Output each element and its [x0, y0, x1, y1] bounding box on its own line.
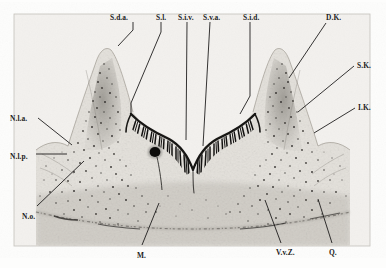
- micrograph-plate: [0, 0, 386, 268]
- figure-label-v-v-z: V.v.Z.: [276, 249, 295, 256]
- basal-stroma: [36, 182, 350, 246]
- figure-label-s-i-d: S.i.d.: [243, 14, 259, 21]
- figure-label-s-i-v: S.i.v.: [178, 14, 194, 21]
- figure-label-s-l: S.l.: [156, 14, 166, 21]
- figure-root: S.d.a.S.l.S.i.v.S.v.a.S.i.d.D.K.S.K.I.K.…: [0, 0, 386, 268]
- figure-label-n-l-a: N.l.a.: [10, 115, 27, 122]
- figure-label-i-k: I.K.: [358, 104, 371, 111]
- figure-label-q: Q.: [329, 249, 337, 256]
- figure-label-m: M.: [137, 252, 146, 259]
- figure-label-s-v-a: S.v.a.: [203, 14, 220, 21]
- figure-label-n-o: N.o.: [22, 213, 35, 220]
- figure-label-n-l-p: N.l.p.: [10, 153, 28, 160]
- figure-label-s-k: S.K.: [357, 62, 371, 69]
- figure-label-s-d-a: S.d.a.: [110, 14, 128, 21]
- figure-label-d-k: D.K.: [326, 14, 341, 21]
